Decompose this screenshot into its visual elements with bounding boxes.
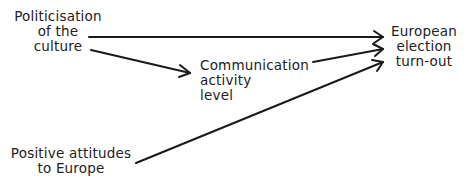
node-communication-line1: Communication — [200, 58, 309, 73]
node-attitudes: Positive attitudes to Europe — [10, 146, 132, 176]
node-attitudes-line1: Positive attitudes — [10, 146, 132, 161]
node-politicisation-line1: Politicisation — [12, 9, 104, 24]
node-turnout: European election turn-out — [388, 24, 460, 69]
arrow-politicisation-to-communication — [91, 50, 190, 77]
node-communication: Communication activity level — [200, 58, 309, 103]
arrow-politicisation-to-turnout — [89, 31, 383, 43]
node-communication-line3: level — [200, 88, 309, 103]
node-politicisation-line2: of the — [12, 24, 104, 39]
node-communication-line2: activity — [200, 73, 309, 88]
node-turnout-line1: European — [388, 24, 460, 39]
path-diagram: Politicisation of the culture Communicat… — [0, 0, 469, 184]
node-politicisation: Politicisation of the culture — [12, 9, 104, 54]
node-politicisation-line3: culture — [12, 39, 104, 54]
node-attitudes-line2: to Europe — [10, 161, 132, 176]
node-turnout-line3: turn-out — [388, 54, 460, 69]
node-turnout-line2: election — [388, 39, 460, 54]
